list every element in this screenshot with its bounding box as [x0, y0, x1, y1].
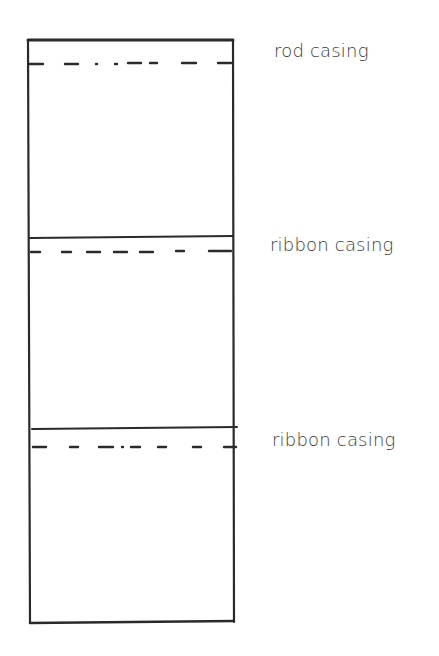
panel-right-edge [233, 40, 234, 622]
ribbon-casing-label-2: ribbon casing [272, 429, 396, 450]
ribbon-casing-2-fold-line [32, 427, 237, 429]
casing-diagram [0, 0, 439, 656]
ribbon-casing-1-lines [30, 236, 233, 252]
ribbon-casing-1-stitch-line [31, 251, 231, 252]
ribbon-casing-label-1: ribbon casing [270, 234, 394, 255]
panel-bottom-edge [30, 621, 234, 623]
ribbon-casing-2-lines [32, 427, 237, 447]
ribbon-casing-1-fold-line [30, 236, 233, 238]
panel-outline [28, 40, 234, 623]
panel-left-edge [28, 40, 30, 623]
rod-casing-label: rod casing [274, 40, 369, 61]
rod-casing-stitch-line [29, 63, 231, 64]
